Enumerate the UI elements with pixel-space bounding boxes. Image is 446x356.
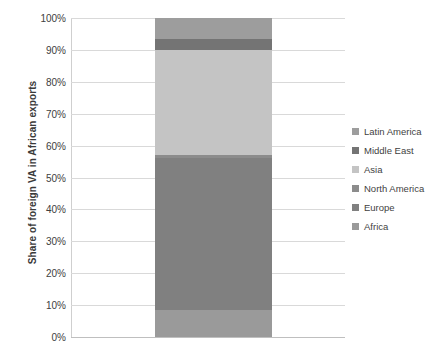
gridline (71, 337, 345, 338)
y-tick-label: 10% (22, 300, 66, 311)
legend-swatch-icon (352, 185, 359, 192)
y-tick-label: 30% (22, 236, 66, 247)
y-tick-label: 0% (22, 332, 66, 343)
legend-item[interactable]: Middle East (352, 141, 444, 160)
bar-segment-africa[interactable] (155, 310, 272, 337)
legend-item[interactable]: Africa (352, 217, 444, 236)
legend-swatch-icon (352, 128, 359, 135)
legend-label: Middle East (364, 146, 414, 156)
legend-swatch-icon (352, 204, 359, 211)
legend-label: Latin America (364, 127, 422, 137)
legend-item[interactable]: Asia (352, 160, 444, 179)
y-tick-label: 60% (22, 140, 66, 151)
y-tick-label: 80% (22, 76, 66, 87)
y-tick-label: 100% (22, 13, 66, 24)
bar-segment-latin-america[interactable] (155, 18, 272, 39)
legend-swatch-icon (352, 223, 359, 230)
stacked-bar-chart: Share of foreign VA in African exports 1… (0, 0, 446, 356)
legend-item[interactable]: Latin America (352, 122, 444, 141)
y-tick-label: 20% (22, 268, 66, 279)
legend-item[interactable]: Europe (352, 198, 444, 217)
legend-label: Europe (364, 203, 395, 213)
y-tick-label: 40% (22, 204, 66, 215)
legend-label: Africa (364, 222, 388, 232)
legend-item[interactable]: North America (352, 179, 444, 198)
legend: Latin AmericaMiddle EastAsiaNorth Americ… (352, 122, 444, 236)
stacked-bar[interactable] (155, 18, 272, 337)
y-tick-label: 90% (22, 44, 66, 55)
legend-swatch-icon (352, 147, 359, 154)
bar-segment-middle-east[interactable] (155, 39, 272, 50)
bar-segment-europe[interactable] (155, 158, 272, 310)
bar-segment-north-america[interactable] (155, 155, 272, 158)
legend-label: Asia (364, 165, 382, 175)
legend-swatch-icon (352, 166, 359, 173)
y-tick-label: 70% (22, 108, 66, 119)
plot-area (71, 18, 345, 337)
legend-label: North America (364, 184, 424, 194)
y-axis-tick-labels: 100%90%80%70%60%50%40%30%20%10%0% (22, 0, 66, 356)
bar-segment-asia[interactable] (155, 50, 272, 155)
y-tick-label: 50% (22, 172, 66, 183)
